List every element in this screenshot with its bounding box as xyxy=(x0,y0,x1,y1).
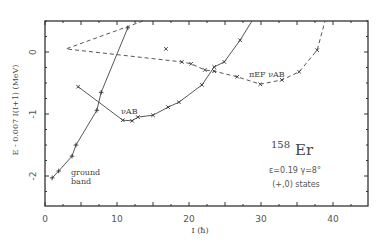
x-tick-40: 40 xyxy=(327,214,339,224)
data-point-marker xyxy=(99,90,104,95)
data-point-marker xyxy=(95,108,100,113)
data-point-marker xyxy=(222,60,226,64)
x-axis-label: I (ħ) xyxy=(191,226,208,235)
x-tick-20: 20 xyxy=(183,214,195,224)
data-point-marker xyxy=(238,38,242,42)
data-point-marker xyxy=(177,100,181,104)
data-point-marker xyxy=(297,70,301,74)
y-axis-label: E - 0.007 I(I+1) (MeV) xyxy=(11,65,20,156)
series-line-1 xyxy=(78,21,252,121)
x-tick-10: 10 xyxy=(111,214,123,224)
nucleus-label: 158 Er xyxy=(271,139,314,159)
series-line-2 xyxy=(66,21,325,84)
x-tick-labels: 0 10 20 30 40 xyxy=(42,214,339,224)
data-point-marker xyxy=(212,65,216,69)
piefvab-band-label: πEF νAB xyxy=(249,70,285,79)
states-label: (+,0) states xyxy=(272,180,320,189)
data-point-marker xyxy=(200,83,204,87)
x-tick-30: 30 xyxy=(255,214,267,224)
level-scheme-chart: 0 10 20 30 40 I (ħ) 0 -1 -2 E - 0.007 I(… xyxy=(0,0,384,249)
nucleus-mass-number: 158 xyxy=(271,139,290,150)
data-point-marker xyxy=(76,85,80,89)
y-tick-minus1: -1 xyxy=(28,110,38,119)
data-series xyxy=(50,21,325,180)
data-point-marker xyxy=(164,47,168,51)
deformation-params: ε=0.19 γ=8° xyxy=(269,166,321,175)
ground-band-label-line1: ground xyxy=(71,168,100,177)
series-line-0 xyxy=(52,28,128,178)
x-tick-0: 0 xyxy=(42,214,48,224)
data-point-marker xyxy=(166,105,170,109)
plot-frame xyxy=(45,21,368,206)
y-tick-minus2: -2 xyxy=(28,172,38,181)
y-tick-0: 0 xyxy=(28,49,38,55)
vab-band-label: νAB xyxy=(121,107,138,116)
ground-band-label-line2: band xyxy=(71,177,91,186)
data-point-marker xyxy=(74,143,79,148)
y-tick-labels: 0 -1 -2 xyxy=(28,49,38,181)
nucleus-symbol: Er xyxy=(295,141,314,159)
